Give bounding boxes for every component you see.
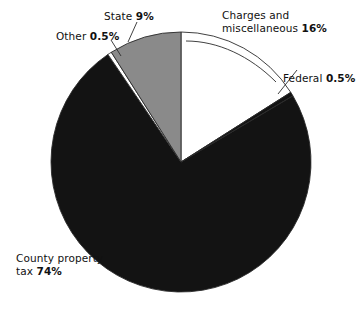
pie-label-federal-value: 0.5% (326, 72, 356, 84)
pie-label-state-value: 9% (136, 10, 154, 22)
pie-label-federal: Federal 0.5% (283, 72, 355, 85)
pie-label-county-line1: County property (16, 252, 103, 264)
pie-label-other-value: 0.5% (90, 30, 120, 42)
pie-label-other: Other 0.5% (56, 30, 119, 43)
pie-label-charges-line2: miscellaneous (222, 22, 298, 34)
pie-label-charges-line1: Charges and (222, 9, 289, 21)
pie-label-charges-and-miscellaneous: Charges and miscellaneous 16% (222, 9, 342, 34)
pie-label-charges-value: 16% (302, 22, 327, 34)
leader-line-state (128, 22, 137, 42)
pie-label-county-line2: tax (16, 265, 33, 277)
pie-chart: State 9% Other 0.5% Charges and miscella… (0, 0, 358, 310)
pie-label-federal-text: Federal (283, 72, 322, 84)
pie-label-state: State 9% (104, 10, 154, 23)
pie-label-county-value: 74% (37, 265, 62, 277)
pie-label-county-property-tax: County property tax 74% (16, 252, 126, 277)
pie-label-other-text: Other (56, 30, 86, 42)
pie-label-state-text: State (104, 10, 132, 22)
